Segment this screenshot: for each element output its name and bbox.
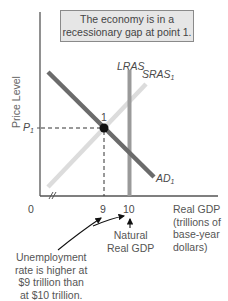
natural-line2: Real GDP [107,242,154,255]
p1-text: P [23,121,30,133]
callout-line1: The economy is in a [61,13,193,26]
sras-text: SRAS [142,68,171,80]
x-label-line3: base-year [173,228,221,241]
callout-line2: recessionary gap at point 1. [61,26,193,39]
x-label-line2: (trillions of [173,216,221,229]
x-label-line4: dollars) [173,241,221,254]
ad-curve [48,72,154,177]
unemp-line1: Unemployment [15,251,87,264]
natural-real-gdp-label: Natural Real GDP [107,229,154,254]
x-tick-10: 10 [123,203,135,215]
unemp-line3: $9 trillion than [15,276,87,289]
unemployment-note: Unemployment rate is higher at $9 trilli… [15,251,87,301]
equilibrium-point [100,124,109,133]
unemp-line2: rate is higher at [15,264,87,277]
x-axis-label: Real GDP (trillions of base-year dollars… [173,203,221,253]
p1-label: P1 [23,121,34,137]
sras-sub: 1 [171,74,175,81]
y-axis-label: Price Level [10,72,22,132]
p1-sub: 1 [30,127,34,134]
x-tick-9: 9 [100,203,106,215]
sras-label: SRAS1 [142,68,175,84]
point-1-label: 1 [101,111,107,123]
arrow-to-10-curve [93,216,124,226]
callout-box: The economy is in a recessionary gap at … [60,10,194,42]
x-label-line1: Real GDP [173,203,221,216]
origin-label: 0 [28,203,34,215]
natural-line1: Natural [107,229,154,242]
lras-label: LRAS [117,60,144,72]
ad-text: AD [156,172,171,184]
ad-label: AD1 [156,172,175,188]
ad-sub: 1 [171,178,175,185]
arrow-to-9 [58,218,101,250]
unemp-line4: at $10 trillion. [15,289,87,301]
